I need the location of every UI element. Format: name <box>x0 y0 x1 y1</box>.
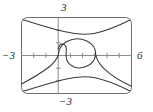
x-axis-max-label: 6 <box>137 50 143 61</box>
plot-canvas <box>0 0 153 112</box>
y-axis-min-label: −3 <box>59 96 72 107</box>
graph-figure: 3 −3 −3 6 <box>0 0 153 112</box>
y-axis-max-label: 3 <box>61 2 67 13</box>
x-axis-min-label: −3 <box>2 50 15 61</box>
